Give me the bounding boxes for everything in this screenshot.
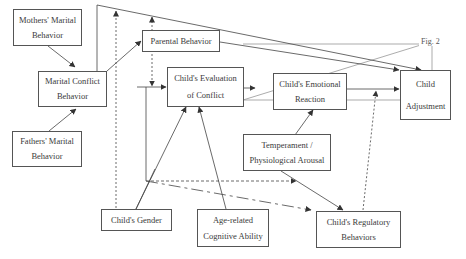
node-label: Child's Gender: [111, 216, 162, 225]
node-child-regulatory-behaviors: Child's Regulatory Behaviors: [316, 211, 401, 248]
node-label: Marital Conflict: [45, 77, 100, 86]
node-fathers-marital-behavior: Fathers' Marital Behavior: [12, 131, 82, 167]
figure-label: Fig. 2: [419, 37, 442, 46]
node-label: Temperament /: [261, 141, 312, 150]
node-label: Mothers' Marital: [19, 16, 76, 25]
node-parental-behavior: Parental Behavior: [142, 30, 220, 52]
node-label: Behavior: [57, 92, 88, 101]
node-label: of Conflict: [187, 91, 224, 100]
node-label: Parental Behavior: [150, 37, 211, 46]
node-label: Behaviors: [341, 233, 375, 242]
node-label: Reaction: [295, 95, 325, 104]
node-child-gender: Child's Gender: [101, 209, 172, 231]
node-age-related-cognitive-ability: Age-related Cognitive Ability: [197, 209, 269, 247]
node-child-emotional-reaction: Child's Emotional Reaction: [273, 73, 347, 110]
node-label: Child's Evaluation: [174, 74, 237, 83]
node-label: Child: [416, 80, 435, 89]
node-label: Cognitive Ability: [203, 232, 262, 241]
node-label: Physiological Arousal: [250, 156, 325, 165]
node-temperament-physiological-arousal: Temperament / Physiological Arousal: [243, 134, 331, 171]
node-mothers-marital-behavior: Mothers' Marital Behavior: [13, 9, 82, 46]
node-label: Child's Regulatory: [327, 218, 391, 227]
node-label: Child's Emotional: [279, 80, 340, 89]
node-label: Age-related: [213, 216, 253, 225]
node-label: Adjustment: [406, 102, 446, 111]
node-label: Behavior: [31, 152, 62, 161]
node-label: Fathers' Marital: [20, 137, 74, 146]
node-marital-conflict-behavior: Marital Conflict Behavior: [38, 71, 107, 107]
node-label: Behavior: [32, 31, 63, 40]
node-child-evaluation-of-conflict: Child's Evaluation of Conflict: [167, 67, 244, 107]
node-child-adjustment: Child Adjustment: [400, 70, 451, 120]
